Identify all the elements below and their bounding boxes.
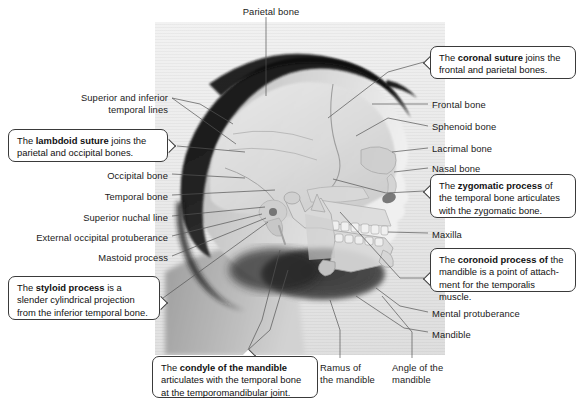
callout-text-part: coronoid process of [458, 254, 548, 265]
callout-text-part: The [439, 180, 458, 191]
label-ramus-of-the-mandible: Ramus of the mandible [320, 362, 390, 385]
callout-coronoid-process: The coronoid process of the mandible is … [430, 248, 576, 292]
label-maxilla: Maxilla [432, 229, 532, 241]
callout-text-part: The [17, 135, 36, 146]
label-superior-inferior-temporal-lines: Superior and inferior temporal lines [58, 92, 168, 115]
callout-text-styloid-process: The styloid process is a slender cylindr… [17, 282, 152, 319]
label-lacrimal-bone: Lacrimal bone [432, 143, 532, 155]
callout-text-lambdoid-suture: The lambdoid suture joins the parietal a… [17, 135, 160, 160]
label-mandible: Mandible [432, 329, 532, 341]
label-external-occipital-protuberance: External occipital protuberance [5, 232, 168, 244]
callout-text-part: styloid process [36, 282, 105, 293]
label-superior-nuchal-line: Superior nuchal line [38, 212, 168, 224]
label-frontal-bone: Frontal bone [432, 99, 532, 111]
callout-text-zygomatic-process: The zygomatic process of the temporal bo… [439, 180, 568, 217]
label-parietal-bone: Parietal bone [226, 6, 316, 18]
label-mental-protuberance: Mental protuberance [432, 308, 552, 320]
callout-text-part: The [17, 282, 36, 293]
callout-coronal-suture: The coronal suture joins the frontal and… [430, 46, 576, 79]
callout-lambdoid-suture: The lambdoid suture joins the parietal a… [8, 129, 168, 162]
label-mastoid-process: Mastoid process [52, 252, 168, 264]
figure-root: Parietal boneSuperior and inferior tempo… [0, 0, 580, 400]
skull-photograph [155, 22, 445, 355]
callout-text-part: The [439, 52, 458, 63]
label-temporal-bone: Temporal bone [62, 191, 168, 203]
label-sphenoid-bone: Sphenoid bone [432, 121, 532, 133]
callout-text-coronoid-process: The coronoid process of the mandible is … [439, 254, 568, 304]
callout-text-part: articulates with the temporal bone at th… [161, 374, 301, 397]
callout-text-part: lambdoid suture [36, 135, 109, 146]
label-angle-of-the-mandible: Angle of the mandible [392, 362, 466, 385]
callout-text-part: condyle of the mandible [180, 362, 287, 373]
label-nasal-bone: Nasal bone [432, 163, 532, 175]
callout-text-part: The [439, 254, 458, 265]
callout-text-condyle-of-the-mandible: The condyle of the mandible articulates … [161, 362, 310, 399]
callout-condyle-of-the-mandible: The condyle of the mandible articulates … [152, 356, 318, 398]
callout-text-coronal-suture: The coronal suture joins the frontal and… [439, 52, 568, 77]
callout-text-part: The [161, 362, 180, 373]
callout-text-part: coronal suture [458, 52, 523, 63]
label-occipital-bone: Occipital bone [62, 170, 168, 182]
callout-zygomatic-process: The zygomatic process of the temporal bo… [430, 174, 576, 218]
callout-styloid-process: The styloid process is a slender cylindr… [8, 276, 160, 320]
callout-text-part: zygomatic process [458, 180, 542, 191]
